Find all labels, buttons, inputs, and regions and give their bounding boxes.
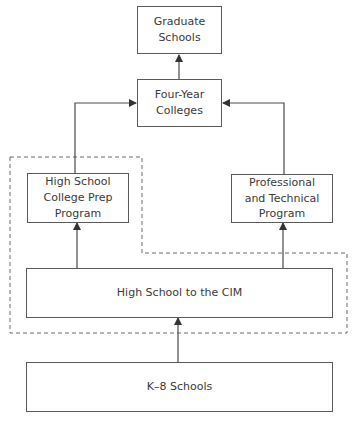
node-four-year-colleges: Four-Year Colleges: [137, 79, 222, 127]
node-professional-technical-program: Professional and Technical Program: [231, 174, 333, 223]
node-high-school-to-cim: High School to the CIM: [26, 268, 333, 318]
node-graduate-schools: Graduate Schools: [137, 6, 222, 54]
node-k8-schools: K–8 Schools: [26, 362, 333, 412]
node-college-prep-program: High School College Prep Program: [27, 173, 129, 223]
